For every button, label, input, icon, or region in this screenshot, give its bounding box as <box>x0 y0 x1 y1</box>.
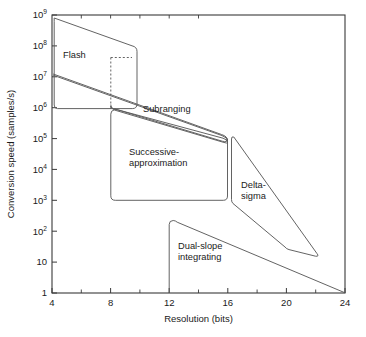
delta-sigma-label-line1: Delta- <box>241 180 266 190</box>
x-axis-ticks <box>52 288 345 293</box>
x-tick-label-12: 12 <box>164 297 175 308</box>
dual-slope-integrating-label-line2: integrating <box>178 252 221 262</box>
region-delta-sigma: Delta- sigma <box>232 137 318 257</box>
y-axis-tick-labels: 1 10 102 103 104 105 106 107 108 109 <box>33 8 48 298</box>
y-tick-label-1e5: 105 <box>33 132 48 144</box>
y-tick-label-1e4: 104 <box>33 163 48 175</box>
x-tick-label-4: 4 <box>49 297 54 308</box>
dual-slope-integrating-label-line1: Dual-slope <box>178 241 222 251</box>
flash-label: Flash <box>63 50 86 60</box>
region-dual-slope-integrating: Dual-slope integrating <box>169 221 344 294</box>
region-successive-approximation: Successive- approximation <box>111 109 228 200</box>
x-axis-title: Resolution (bits) <box>164 313 233 324</box>
y-tick-label-1e8: 108 <box>33 39 48 51</box>
chart-figure: 1 10 102 103 104 105 106 107 108 109 <box>0 0 366 337</box>
x-tick-label-24: 24 <box>340 297 351 308</box>
successive-approximation-label-line2: approximation <box>129 158 187 168</box>
y-tick-label-1e2: 102 <box>33 225 48 237</box>
x-axis-tick-labels: 4 8 12 16 20 24 <box>49 297 350 308</box>
delta-sigma-label-line2: sigma <box>241 191 267 201</box>
subranging-label: Subranging <box>143 104 191 114</box>
y-tick-label-10: 10 <box>36 256 47 267</box>
successive-approximation-label-line1: Successive- <box>129 147 179 157</box>
y-tick-label-1e7: 107 <box>33 70 48 82</box>
y-tick-label-1e3: 103 <box>33 194 48 206</box>
region-flash: Flash <box>54 18 137 109</box>
flash-region-outline <box>54 18 137 109</box>
adc-conversion-speed-chart: 1 10 102 103 104 105 106 107 108 109 <box>0 0 366 337</box>
y-tick-label-1e9: 109 <box>33 8 48 20</box>
y-tick-label-1: 1 <box>42 287 47 298</box>
y-axis-title: Conversion speed (samples/s) <box>5 90 16 218</box>
x-tick-label-8: 8 <box>108 297 113 308</box>
y-tick-label-1e6: 106 <box>33 101 48 113</box>
x-tick-label-16: 16 <box>223 297 234 308</box>
x-tick-label-20: 20 <box>281 297 292 308</box>
